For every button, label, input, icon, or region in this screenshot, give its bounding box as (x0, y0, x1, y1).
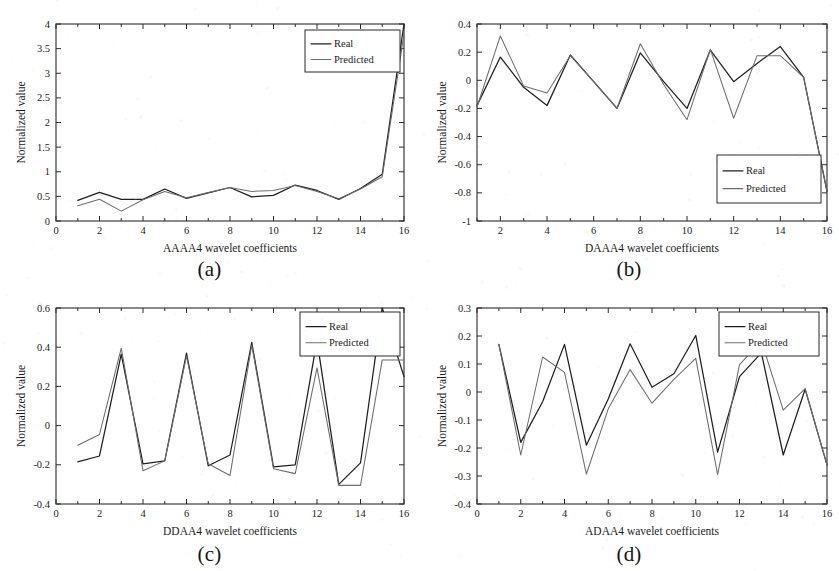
panel-b-caption: (b) (419, 257, 839, 282)
svg-text:1.5: 1.5 (37, 142, 50, 153)
svg-text:2: 2 (97, 508, 102, 519)
svg-text:10: 10 (691, 508, 702, 519)
svg-text:2.5: 2.5 (37, 92, 50, 103)
svg-text:12: 12 (312, 508, 323, 519)
legend-label-predicted: Predicted (334, 54, 374, 65)
svg-text:0.2: 0.2 (37, 381, 50, 392)
svg-text:4: 4 (140, 508, 146, 519)
svg-text:1: 1 (45, 166, 50, 177)
svg-text:2: 2 (498, 225, 503, 236)
x-axis-title: DDAA4 wavelet coefficients (163, 525, 297, 537)
svg-text:-0.3: -0.3 (454, 471, 471, 482)
svg-text:-1: -1 (462, 216, 471, 227)
y-axis-title: Normalized value (436, 81, 448, 163)
legend: RealPredicted (300, 312, 400, 356)
svg-text:3.5: 3.5 (37, 43, 50, 54)
series-predicted-line (499, 341, 827, 475)
svg-text:10: 10 (682, 225, 693, 236)
figure-panel-grid: 024681012141600.511.522.533.54AAAA4 wave… (0, 0, 839, 571)
svg-text:0: 0 (45, 216, 50, 227)
series-predicted-line (78, 345, 404, 485)
svg-text:8: 8 (638, 225, 643, 236)
svg-text:0: 0 (466, 75, 471, 86)
panel-c-plot: 02468101214160.60.40.20-0.2-0.4DDAA4 wav… (0, 286, 419, 571)
svg-text:-0.2: -0.2 (454, 443, 471, 454)
svg-text:-0.6: -0.6 (454, 159, 471, 170)
legend: RealPredicted (719, 312, 819, 356)
svg-text:2: 2 (45, 117, 50, 128)
legend: RealPredicted (717, 155, 821, 203)
svg-text:16: 16 (399, 225, 410, 236)
svg-text:-0.2: -0.2 (33, 459, 50, 470)
panel-d-plot: 02468101214160.30.20.10-0.1-0.2-0.3-0.4A… (419, 286, 839, 571)
svg-text:-0.8: -0.8 (454, 187, 471, 198)
panel-c: 02468101214160.60.40.20-0.2-0.4DDAA4 wav… (0, 286, 419, 571)
legend-label-predicted: Predicted (329, 337, 369, 348)
svg-text:16: 16 (399, 508, 410, 519)
panel-b: 2468101214160.40.20-0.2-0.4-0.6-0.8-1DAA… (419, 0, 839, 286)
svg-text:-0.4: -0.4 (33, 499, 50, 510)
svg-text:14: 14 (778, 508, 789, 519)
svg-text:0.4: 0.4 (458, 19, 472, 30)
svg-text:0.4: 0.4 (37, 342, 51, 353)
panel-a-caption: (a) (0, 257, 419, 282)
svg-text:2: 2 (97, 225, 102, 236)
panel-d: 02468101214160.30.20.10-0.1-0.2-0.3-0.4A… (419, 286, 839, 571)
x-axis-title: AAAA4 wavelet coefficients (163, 242, 297, 254)
svg-text:6: 6 (184, 225, 189, 236)
svg-text:16: 16 (822, 225, 833, 236)
panel-c-caption: (c) (0, 542, 419, 567)
y-axis-title: Normalized value (15, 81, 27, 163)
y-axis-title: Normalized value (15, 365, 27, 447)
svg-text:6: 6 (606, 508, 611, 519)
svg-text:14: 14 (775, 225, 786, 236)
svg-text:-0.4: -0.4 (454, 131, 471, 142)
panel-a: 024681012141600.511.522.533.54AAAA4 wave… (0, 0, 419, 286)
svg-text:3: 3 (45, 68, 50, 79)
svg-text:-0.4: -0.4 (454, 499, 471, 510)
svg-text:0: 0 (45, 420, 50, 431)
svg-text:0.2: 0.2 (458, 331, 471, 342)
legend-label-real: Real (329, 321, 348, 332)
svg-text:14: 14 (355, 508, 366, 519)
svg-text:0.1: 0.1 (458, 359, 471, 370)
legend-label-real: Real (334, 38, 353, 49)
svg-text:10: 10 (268, 508, 279, 519)
svg-text:12: 12 (728, 225, 739, 236)
svg-text:4: 4 (45, 19, 51, 30)
svg-text:12: 12 (734, 508, 745, 519)
svg-text:0.5: 0.5 (37, 191, 50, 202)
svg-text:16: 16 (822, 508, 833, 519)
svg-text:0.6: 0.6 (37, 303, 50, 314)
svg-text:0.2: 0.2 (458, 47, 471, 58)
svg-text:-0.1: -0.1 (454, 415, 471, 426)
svg-text:8: 8 (227, 225, 232, 236)
panel-d-caption: (d) (419, 542, 839, 567)
svg-text:10: 10 (268, 225, 279, 236)
panel-b-plot: 2468101214160.40.20-0.2-0.4-0.6-0.8-1DAA… (419, 0, 839, 286)
y-axis-title: Normalized value (436, 365, 448, 447)
svg-text:4: 4 (544, 225, 550, 236)
svg-text:14: 14 (355, 225, 366, 236)
x-axis-title: ADAA4 wavelet coefficients (585, 525, 719, 537)
legend-label-predicted: Predicted (748, 337, 788, 348)
svg-text:8: 8 (227, 508, 232, 519)
svg-text:8: 8 (649, 508, 654, 519)
legend-label-real: Real (746, 165, 765, 176)
legend-label-predicted: Predicted (746, 183, 786, 194)
legend-label-real: Real (748, 321, 767, 332)
svg-text:0: 0 (53, 225, 58, 236)
panel-a-plot: 024681012141600.511.522.533.54AAAA4 wave… (0, 0, 419, 286)
svg-text:12: 12 (312, 225, 323, 236)
svg-text:6: 6 (591, 225, 596, 236)
svg-text:4: 4 (140, 225, 146, 236)
svg-text:0: 0 (466, 387, 471, 398)
svg-text:0: 0 (53, 508, 58, 519)
svg-text:2: 2 (518, 508, 523, 519)
legend: RealPredicted (305, 30, 400, 72)
svg-text:-0.2: -0.2 (454, 103, 471, 114)
svg-text:6: 6 (184, 508, 189, 519)
svg-text:4: 4 (562, 508, 568, 519)
x-axis-title: DAAA4 wavelet coefficients (585, 242, 719, 254)
svg-text:0.3: 0.3 (458, 303, 471, 314)
